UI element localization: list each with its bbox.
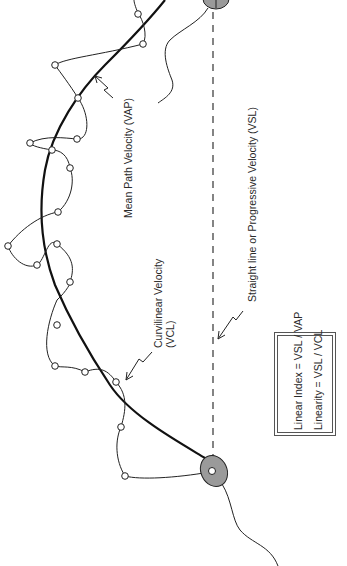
bottom-sperm-head <box>195 451 232 491</box>
formula-box: Linear Index = VSL / VAP Linearity = VSL… <box>274 332 336 436</box>
vsl-pointer-arrow <box>218 311 243 339</box>
bottom-sperm-tail <box>222 484 278 566</box>
vcl-label-line2: (VCL) <box>164 321 176 348</box>
vap-label: Mean Path Velocity (VAP) <box>122 98 134 218</box>
formula-box-inner: Linear Index = VSL / VAP Linearity = VSL… <box>277 335 333 433</box>
vcl-path <box>8 0 210 478</box>
motility-diagram <box>0 0 347 566</box>
vap-pointer-arrow <box>95 76 113 98</box>
vcl-pointer-arrow <box>126 352 152 380</box>
linearity-formula: Linearity = VSL / VCL <box>312 330 324 430</box>
vap-path <box>42 0 205 458</box>
top-sperm-head <box>203 0 229 9</box>
vsl-label: Straight line or Progressive Velocity (V… <box>246 107 258 302</box>
top-sperm-tail <box>158 8 208 103</box>
vcl-label-line1: Curvilinear Velocity <box>152 259 164 348</box>
linear-index-formula: Linear Index = VSL / VAP <box>292 312 304 430</box>
